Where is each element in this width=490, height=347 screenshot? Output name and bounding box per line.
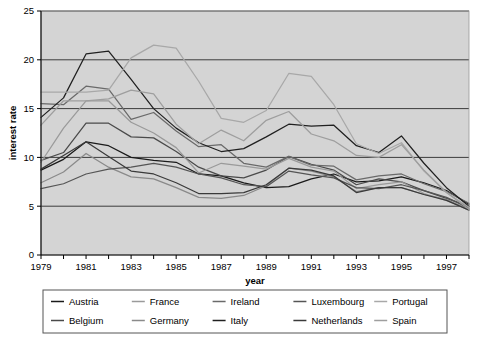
y-tick-label-0: 0 — [29, 249, 34, 260]
x-tick-label-1995: 1995 — [391, 261, 412, 272]
x-axis-title: year — [245, 275, 265, 286]
plot-area — [41, 11, 469, 255]
x-tick-label-1987: 1987 — [211, 261, 232, 272]
x-tick-label-1985: 1985 — [166, 261, 187, 272]
legend: AustriaFranceIrelandLuxembourgPortugalBe… — [43, 290, 447, 333]
figure-container: 0510152025 interest rate 197919811983198… — [0, 0, 490, 347]
legend-label-germany: Germany — [150, 315, 189, 326]
legend-label-france: France — [150, 296, 180, 307]
legend-label-portugal: Portugal — [392, 296, 427, 307]
legend-label-italy: Italy — [231, 315, 249, 326]
y-tick-label-15: 15 — [23, 103, 34, 114]
legend-label-belgium: Belgium — [69, 315, 103, 326]
x-tick-label-1997: 1997 — [436, 261, 457, 272]
interest-rate-line-chart: 0510152025 interest rate 197919811983198… — [0, 0, 490, 347]
y-tick-label-20: 20 — [23, 54, 34, 65]
legend-label-netherlands: Netherlands — [311, 315, 362, 326]
legend-label-spain: Spain — [392, 315, 416, 326]
x-tick-label-1993: 1993 — [346, 261, 367, 272]
x-tick-label-1983: 1983 — [121, 261, 142, 272]
y-axis-title: interest rate — [7, 106, 18, 160]
y-tick-label-10: 10 — [23, 152, 34, 163]
x-tick-label-1979: 1979 — [30, 261, 51, 272]
plot-background — [41, 11, 469, 255]
legend-label-ireland: Ireland — [231, 296, 260, 307]
y-tick-label-5: 5 — [29, 201, 34, 212]
x-tick-label-1989: 1989 — [256, 261, 277, 272]
legend-label-austria: Austria — [69, 296, 99, 307]
x-tick-label-1981: 1981 — [75, 261, 96, 272]
x-tick-label-1991: 1991 — [301, 261, 322, 272]
legend-label-luxembourg: Luxembourg — [311, 296, 364, 307]
y-tick-label-25: 25 — [23, 5, 34, 16]
